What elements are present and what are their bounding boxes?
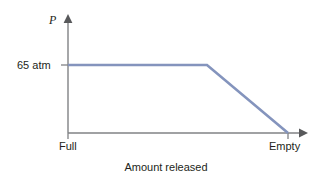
pressure-curve: [68, 65, 288, 133]
x-axis-arrowhead-icon: [299, 129, 308, 138]
x-tick-label-full: Full: [59, 141, 77, 152]
chart-plot-area: [0, 0, 332, 185]
y-axis-title: P: [49, 14, 56, 26]
x-axis-title: Amount released: [0, 162, 332, 173]
y-axis-arrowhead-icon: [64, 14, 73, 23]
pressure-vs-amount-released-chart: P 65 atm Full Empty Amount released: [0, 0, 332, 185]
y-tick-label-65-atm: 65 atm: [17, 60, 51, 71]
x-tick-label-empty: Empty: [269, 141, 300, 152]
